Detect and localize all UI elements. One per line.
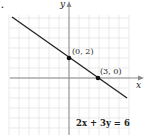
problem-marker: . xyxy=(1,1,4,9)
point-label-3-0: (3, 0) xyxy=(100,68,122,76)
equation-label: 2x + 3y = 6 xyxy=(76,119,130,128)
point-3-0 xyxy=(96,76,101,81)
point-0-2 xyxy=(67,56,72,61)
y-axis-label: y xyxy=(60,0,65,9)
coordinate-plane xyxy=(0,0,146,135)
point-label-0-2: (0, 2) xyxy=(72,48,94,56)
x-axis-label: x xyxy=(136,81,141,90)
y-axis-arrow-icon xyxy=(67,1,72,7)
